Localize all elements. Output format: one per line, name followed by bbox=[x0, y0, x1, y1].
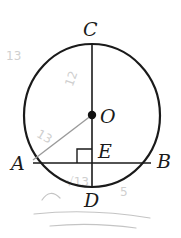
label-e: E bbox=[97, 140, 112, 162]
pencil-note-2: 12 bbox=[62, 69, 80, 88]
pencil-stroke-1 bbox=[34, 212, 150, 218]
pencil-stroke-3 bbox=[42, 193, 60, 200]
label-o: O bbox=[100, 105, 116, 127]
center-point-o bbox=[88, 111, 96, 119]
pencil-note-1: 13 bbox=[6, 49, 21, 63]
diagram-canvas: 13 12 13 √13 5 C O A E B D bbox=[0, 0, 181, 238]
label-d: D bbox=[83, 189, 99, 211]
pencil-note-5: 5 bbox=[120, 185, 128, 199]
geometry-figure: 13 12 13 √13 5 C O A E B D bbox=[0, 0, 181, 238]
label-c: C bbox=[83, 18, 98, 40]
label-b: B bbox=[156, 150, 171, 172]
right-angle-mark bbox=[77, 149, 92, 163]
pencil-note-3: 13 bbox=[34, 127, 54, 147]
pencil-stroke-2 bbox=[50, 224, 136, 228]
label-a: A bbox=[9, 152, 25, 174]
